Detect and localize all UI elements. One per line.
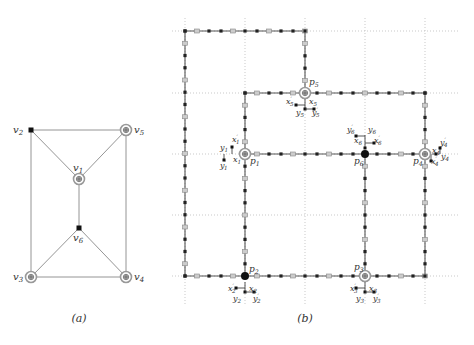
gray-marker-icon <box>231 29 236 33</box>
black-marker-icon <box>363 213 366 216</box>
black-marker-icon <box>363 177 366 180</box>
terminal-p1-icon <box>240 149 251 160</box>
black-marker-icon <box>183 201 186 204</box>
black-marker-icon <box>219 274 222 277</box>
black-marker-icon <box>183 213 186 216</box>
gadget-label: x′5 <box>286 95 294 107</box>
gadget-label: y3 <box>355 294 365 304</box>
black-marker-icon <box>387 152 390 155</box>
gadget-label: y′4 <box>439 136 448 148</box>
black-marker-icon <box>207 274 210 277</box>
gadget-label: x′2 <box>228 282 236 294</box>
black-marker-icon <box>363 226 366 229</box>
embedding-path <box>185 31 245 276</box>
black-marker-icon <box>219 29 222 32</box>
gray-marker-icon <box>195 274 200 278</box>
black-marker-icon <box>411 91 414 94</box>
black-marker-icon <box>363 262 366 265</box>
terminal-label-p5: p5 <box>309 77 319 88</box>
gadget-label: x′1 <box>232 133 239 145</box>
gray-marker-icon <box>243 213 248 217</box>
black-marker-icon <box>339 274 342 277</box>
black-marker-icon <box>303 67 306 70</box>
black-marker-icon <box>183 250 186 253</box>
black-marker-icon <box>279 91 282 94</box>
gray-marker-icon <box>303 79 308 83</box>
gray-marker-icon <box>363 237 368 241</box>
black-marker-icon <box>279 274 282 277</box>
black-marker-icon <box>243 29 246 32</box>
black-marker-icon <box>423 116 426 119</box>
gray-marker-icon <box>363 201 368 205</box>
caption-b: (b) <box>297 312 313 325</box>
black-marker-icon <box>207 29 210 32</box>
black-marker-icon <box>315 274 318 277</box>
black-marker-icon <box>423 91 426 94</box>
gadget-label: y′1 <box>219 159 227 171</box>
gadget-label: y4 <box>440 152 450 162</box>
black-marker-icon <box>183 103 186 106</box>
gadget-label: x3 <box>369 284 378 294</box>
black-marker-icon <box>315 152 318 155</box>
gadget-label: x6 <box>354 136 363 146</box>
gray-marker-icon <box>327 152 332 156</box>
black-marker-icon <box>243 189 246 192</box>
gray-marker-icon <box>183 115 188 119</box>
black-marker-icon <box>183 29 186 32</box>
gray-marker-icon <box>363 91 368 95</box>
graph-edge <box>31 130 79 179</box>
gray-marker-icon <box>243 140 248 144</box>
gray-marker-icon <box>267 29 272 33</box>
gadget-label: y5 <box>295 108 305 118</box>
vertex-v2-dot-icon <box>29 128 34 133</box>
gray-marker-icon <box>183 78 188 82</box>
black-marker-icon <box>243 128 246 131</box>
gray-marker-icon <box>423 164 428 168</box>
black-marker-icon <box>183 176 186 179</box>
graph-edge <box>31 228 79 277</box>
gray-marker-icon <box>291 274 296 278</box>
black-marker-icon <box>183 54 186 57</box>
gray-marker-icon <box>255 91 260 95</box>
gray-marker-icon <box>183 262 188 266</box>
black-marker-icon <box>267 91 270 94</box>
vertex-label-v2: v2 <box>13 124 24 137</box>
gadget-label: y6 <box>367 125 377 135</box>
caption-a: (a) <box>71 312 86 325</box>
black-marker-icon <box>267 274 270 277</box>
terminal-label-p6: p6 <box>354 156 364 167</box>
black-marker-icon <box>387 91 390 94</box>
gadget-label: y′5 <box>311 106 320 118</box>
vertex-label-v1: v1 <box>73 162 83 175</box>
terminal-label-p1: p1 <box>250 156 260 167</box>
vertex-v3-terminal-icon <box>26 272 37 283</box>
gray-marker-icon <box>327 91 332 95</box>
terminal-label-p2: p2 <box>249 264 259 275</box>
black-marker-icon <box>303 152 306 155</box>
black-marker-icon <box>267 152 270 155</box>
gadget-label: y′3 <box>372 292 381 304</box>
black-marker-icon <box>243 226 246 229</box>
gadget-label: y1 <box>219 143 228 153</box>
black-marker-icon <box>183 164 186 167</box>
gray-marker-icon <box>423 140 428 144</box>
black-marker-icon <box>363 250 366 253</box>
black-marker-icon <box>387 274 390 277</box>
gray-marker-icon <box>423 103 428 107</box>
gray-marker-icon <box>291 152 296 156</box>
vertex-v1-terminal-icon <box>74 174 85 185</box>
black-marker-icon <box>183 66 186 69</box>
gray-marker-icon <box>303 41 308 45</box>
black-marker-icon <box>339 91 342 94</box>
panel-b-grid-embedding: p1p2p3p4p5p6x′1x1y1y′1x′2x2y2y′2x′3x3y3y… <box>172 18 458 305</box>
black-marker-icon <box>423 128 426 131</box>
gray-marker-icon <box>243 103 248 107</box>
gray-marker-icon <box>399 91 404 95</box>
gray-marker-icon <box>183 188 188 192</box>
black-marker-icon <box>183 238 186 241</box>
graph-edge <box>79 228 126 277</box>
gadget-label: x2 <box>249 284 258 294</box>
black-marker-icon <box>243 262 246 265</box>
gray-marker-icon <box>231 274 236 278</box>
figure-canvas: v1v2v3v4v5v6 p1p2p3p4p5p6x′1x1y1y′1x′2x2… <box>0 0 474 345</box>
